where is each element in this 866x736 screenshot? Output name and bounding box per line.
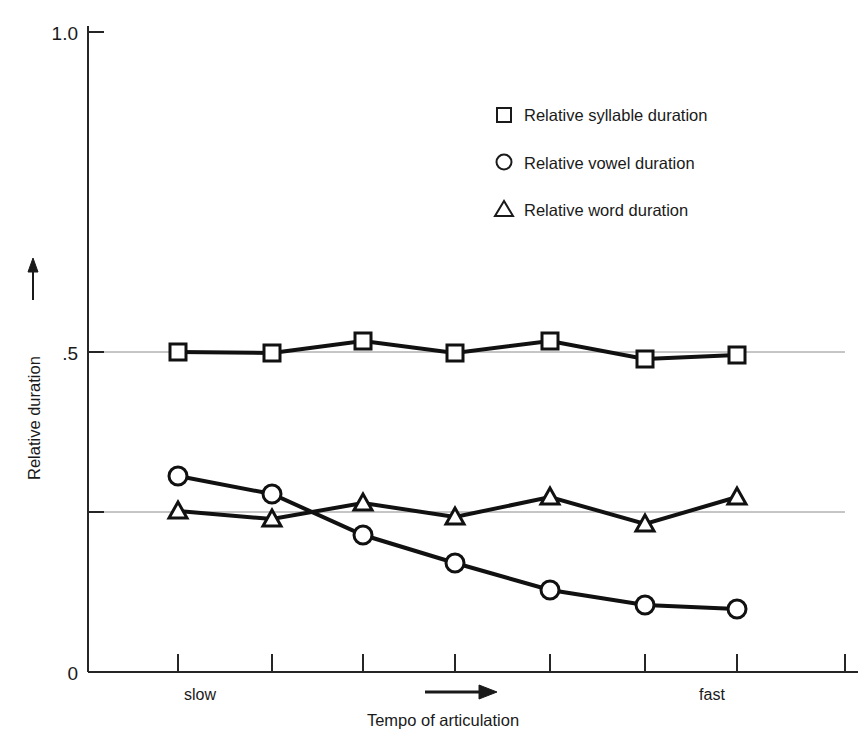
x-axis-title: Tempo of articulation <box>367 711 519 729</box>
legend-entry-vowel: Relative vowel duration <box>497 154 695 172</box>
legend-circle-icon <box>497 155 512 170</box>
data-point-square-2 <box>264 345 280 361</box>
data-point-square-6 <box>637 351 653 367</box>
y-axis-title: Relative duration <box>25 356 43 480</box>
legend-label-syllable: Relative syllable duration <box>524 106 707 124</box>
data-point-circle-6 <box>636 596 654 614</box>
legend-entry-word: Relative word duration <box>495 201 688 219</box>
x-tick-label-fast: fast <box>699 686 725 703</box>
data-point-square-4 <box>447 345 463 361</box>
chart-legend: Relative syllable duration Relative vowe… <box>495 106 707 219</box>
y-tick-label-top: 1.0 <box>52 23 78 44</box>
legend-label-word: Relative word duration <box>524 201 688 219</box>
data-point-square-3 <box>355 333 371 349</box>
data-point-circle-3 <box>354 526 372 544</box>
chart-background <box>0 0 866 736</box>
legend-entry-syllable: Relative syllable duration <box>497 106 707 124</box>
y-tick-label-mid: .5 <box>62 343 78 364</box>
data-point-circle-4 <box>446 554 464 572</box>
data-point-circle-1 <box>169 467 187 485</box>
data-point-circle-5 <box>541 581 559 599</box>
legend-square-icon <box>497 108 511 122</box>
data-point-square-1 <box>170 344 186 360</box>
y-tick-label-bottom: 0 <box>67 663 78 684</box>
data-point-circle-2 <box>263 485 281 503</box>
legend-label-vowel: Relative vowel duration <box>524 154 695 172</box>
data-point-square-7 <box>729 347 745 363</box>
data-point-square-5 <box>542 333 558 349</box>
data-point-circle-7 <box>728 600 746 618</box>
x-tick-label-slow: slow <box>184 686 216 703</box>
chart-figure: 1.0 .5 0 Relative duration slow fast Tem… <box>0 0 866 736</box>
